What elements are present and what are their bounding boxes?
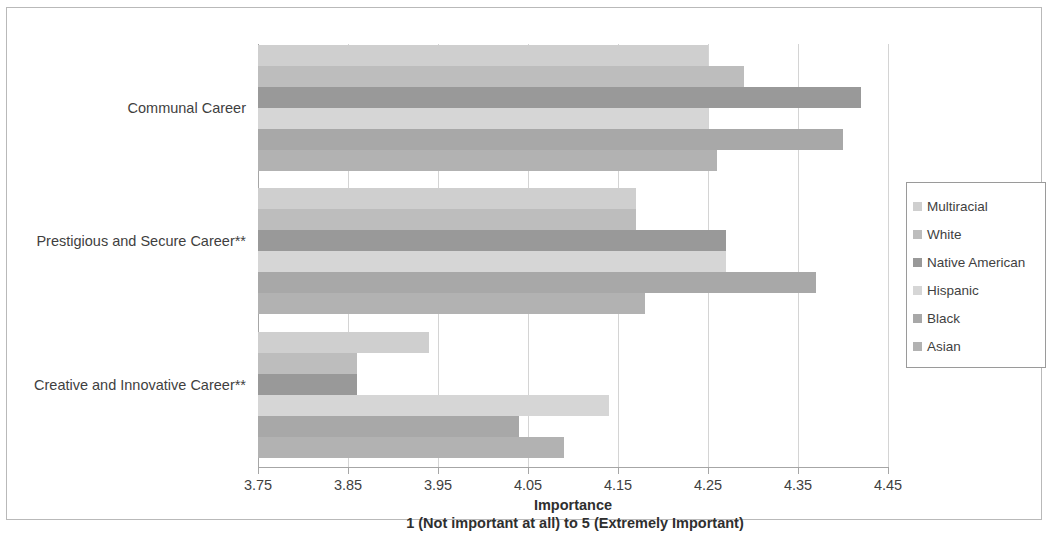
x-tick-label: 3.85	[318, 477, 378, 493]
legend-item: Asian	[913, 332, 1045, 360]
legend-label: Hispanic	[927, 283, 979, 298]
tick-mark	[438, 468, 439, 474]
legend-swatch-icon	[913, 286, 922, 295]
legend-item: Black	[913, 304, 1045, 332]
bar	[258, 129, 843, 150]
bar	[258, 108, 708, 129]
legend-swatch-icon	[913, 230, 922, 239]
x-tick-label: 4.15	[588, 477, 648, 493]
legend-item: Native American	[913, 248, 1045, 276]
x-tick-label: 4.05	[498, 477, 558, 493]
x-tick-label: 4.25	[678, 477, 738, 493]
legend-item: White	[913, 220, 1045, 248]
bar	[258, 66, 744, 87]
legend-label: Black	[927, 311, 960, 326]
bar	[258, 209, 636, 230]
tick-mark	[708, 468, 709, 474]
bar	[258, 353, 357, 374]
bar	[258, 150, 717, 171]
bar-chart-figure: Communal CareerPrestigious and Secure Ca…	[0, 0, 1052, 534]
tick-mark	[798, 468, 799, 474]
bar	[258, 332, 429, 353]
bar	[258, 437, 564, 458]
bar	[258, 87, 861, 108]
bar	[258, 293, 645, 314]
legend-item: Multiracial	[913, 192, 1045, 220]
x-tick-label: 3.95	[408, 477, 468, 493]
legend-label: White	[927, 227, 962, 242]
tick-mark	[348, 468, 349, 474]
bar	[258, 45, 708, 66]
legend-item: Hispanic	[913, 276, 1045, 304]
legend-label: Asian	[927, 339, 961, 354]
bar	[258, 374, 357, 395]
category-label: Creative and Innovative Career**	[6, 375, 246, 395]
category-label: Communal Career	[6, 98, 246, 118]
bar-group	[0, 332, 1052, 458]
legend-swatch-icon	[913, 314, 922, 323]
x-tick-label: 4.35	[768, 477, 828, 493]
tick-mark	[888, 468, 889, 474]
bar	[258, 272, 816, 293]
legend-swatch-icon	[913, 202, 922, 211]
bar	[258, 188, 636, 209]
x-axis-line	[258, 467, 889, 468]
legend-box: MultiracialWhiteNative AmericanHispanicB…	[906, 182, 1046, 368]
bar-group	[0, 188, 1052, 314]
legend-swatch-icon	[913, 258, 922, 267]
bar	[258, 416, 519, 437]
x-tick-label: 3.75	[228, 477, 288, 493]
x-tick-label: 4.45	[858, 477, 918, 493]
tick-mark	[528, 468, 529, 474]
tick-mark	[618, 468, 619, 474]
legend-swatch-icon	[913, 342, 922, 351]
legend-label: Multiracial	[927, 199, 988, 214]
bar	[258, 395, 609, 416]
tick-mark	[258, 468, 259, 474]
bar	[258, 230, 726, 251]
legend-label: Native American	[927, 255, 1025, 270]
x-axis-title: Importance	[258, 497, 888, 513]
category-label: Prestigious and Secure Career**	[6, 231, 246, 251]
bar	[258, 251, 726, 272]
x-axis-subtitle: 1 (Not important at all) to 5 (Extremely…	[160, 515, 990, 531]
